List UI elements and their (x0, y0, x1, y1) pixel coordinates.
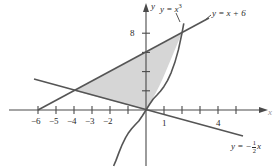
x-tick-label-minus3: −3 (85, 117, 95, 126)
curve-label-line-half: y = −12x (231, 140, 261, 154)
graph-figure: y x 8 −6 −5 −4 −3 −2 1 4 y = x3 y = x + … (0, 0, 277, 168)
y-tick-label-8: 8 (130, 29, 135, 38)
y-axis-arrowhead (143, 3, 149, 12)
x-tick-label-minus6: −6 (31, 117, 41, 126)
x-tick-label-1: 1 (162, 119, 167, 128)
x-tick-label-4: 4 (216, 119, 221, 128)
x-tick-label-minus2: −2 (103, 117, 113, 126)
curve-label-line-half-lead: y = − (231, 141, 252, 151)
x-axis-arrowhead (259, 107, 268, 113)
curve-label-cubic: y = x3 (160, 3, 182, 14)
curve-label-cubic-text: y = x (160, 4, 179, 14)
fraction-denominator: 2 (252, 148, 256, 155)
x-tick-label-minus4: −4 (67, 117, 77, 126)
curve-label-line-plus6: y = x + 6 (212, 9, 246, 18)
x-axis-label: x (268, 108, 272, 117)
cubic-label-leader (176, 13, 180, 22)
shaded-region (74, 33, 182, 110)
y-axis-label: y (151, 2, 155, 11)
curve-label-cubic-exponent: 3 (179, 2, 182, 9)
curve-label-line-half-trail: x (257, 141, 261, 151)
one-half-fraction: 12 (252, 140, 256, 154)
x-tick-label-minus5: −5 (49, 117, 59, 126)
